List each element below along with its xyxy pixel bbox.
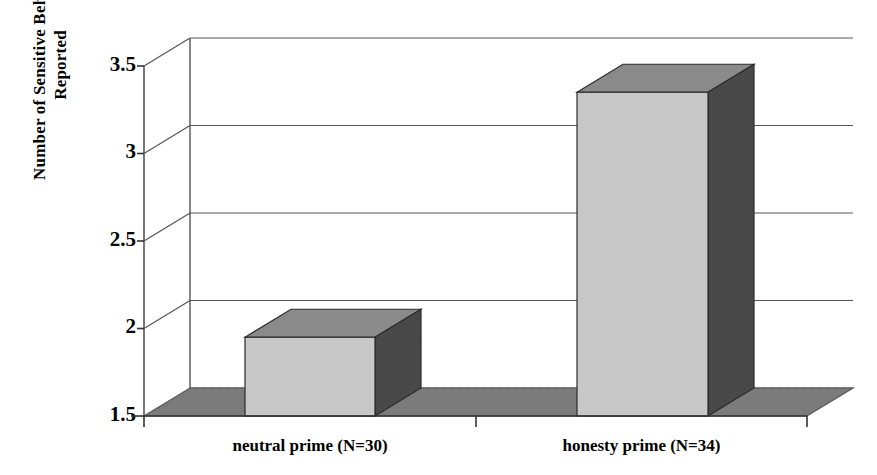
- x-axis-ticks: [144, 416, 807, 427]
- bar-honesty-prime-front: [577, 92, 708, 416]
- depth-line-2: [144, 301, 190, 329]
- depth-line-3: [144, 126, 190, 154]
- y-axis-ticks: [131, 66, 144, 416]
- x-axis-label-neutral-prime: neutral prime (N=30): [144, 436, 476, 456]
- plot-area: [0, 0, 877, 475]
- depth-line-3.5: [144, 38, 190, 66]
- bar-honesty-prime-side: [708, 64, 754, 416]
- bar-honesty-prime[interactable]: [577, 64, 754, 416]
- depth-line-2.5: [144, 213, 190, 241]
- x-axis-label-honesty-prime: honesty prime (N=34): [476, 436, 807, 456]
- bar-neutral-prime-front: [245, 337, 375, 416]
- depth-connectors: [144, 38, 190, 329]
- bar-chart: Number of Sensitive Behaviors Reported 3…: [0, 0, 877, 475]
- bar-neutral-prime[interactable]: [245, 309, 421, 416]
